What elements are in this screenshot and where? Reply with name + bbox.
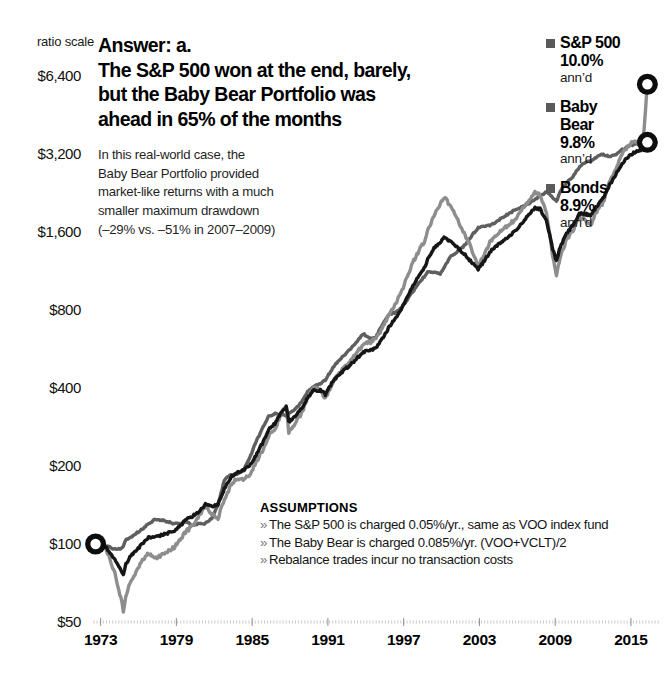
subcopy-line-4: smaller maximum drawdown bbox=[98, 202, 348, 221]
subcopy-line-1: In this real-world case, the bbox=[98, 146, 348, 165]
y-axis-label-1600: $1,600 bbox=[5, 223, 81, 240]
page-title: Answer: a. The S&P 500 won at the end, b… bbox=[98, 33, 428, 131]
y-axis-label-100: $100 bbox=[5, 535, 81, 552]
x-axis-label-1985: 1985 bbox=[222, 631, 282, 649]
chart-legend: S&P 500 10.0% ann’d Baby Bear 9.8% ann’d… bbox=[546, 34, 664, 243]
headline-line-4: ahead in 65% of the months bbox=[98, 107, 428, 132]
x-axis-label-1973: 1973 bbox=[71, 631, 131, 649]
x-axis-label-2015: 2015 bbox=[601, 631, 661, 649]
y-axis-label-6400: $6,400 bbox=[5, 67, 81, 84]
start-marker-100-hole bbox=[90, 539, 100, 549]
legend-item-baby-bear: Baby Bear 9.8% ann’d bbox=[546, 98, 664, 169]
headline-line-3: but the Baby Bear Portfolio was bbox=[98, 82, 428, 107]
subcopy-line-2: Baby Bear Portfolio provided bbox=[98, 165, 348, 184]
legend-swatch-icon-bonds bbox=[546, 184, 555, 193]
assumptions-block: ASSUMPTIONS »The S&P 500 is charged 0.05… bbox=[260, 500, 660, 569]
assumption-item-1: »The S&P 500 is charged 0.05%/yr., same … bbox=[260, 516, 660, 534]
bullet-icon-1: » bbox=[260, 517, 267, 532]
legend-label-baby-bear-2: Bear bbox=[560, 116, 664, 134]
assumption-text-1: The S&P 500 is charged 0.05%/yr., same a… bbox=[269, 517, 608, 532]
legend-swatch-icon-sp500 bbox=[546, 39, 555, 48]
legend-return-bonds: 8.9% bbox=[560, 197, 664, 215]
headline-line-1: Answer: a. bbox=[98, 33, 428, 58]
y-axis-label-200: $200 bbox=[5, 457, 81, 474]
assumption-item-3: »Rebalance trades incur no transaction c… bbox=[260, 551, 660, 569]
x-axis-label-1979: 1979 bbox=[146, 631, 206, 649]
y-axis-label-400: $400 bbox=[5, 379, 81, 396]
bullet-icon-2: » bbox=[260, 535, 267, 550]
x-axis-label-2009: 2009 bbox=[525, 631, 585, 649]
legend-return-baby-bear: 9.8% bbox=[560, 134, 664, 152]
y-axis-label-50: $50 bbox=[5, 613, 81, 630]
chart-page: ratio scale Answer: a. The S&P 500 won a… bbox=[0, 0, 667, 684]
subcopy-line-5: (–29% vs. –51% in 2007–2009) bbox=[98, 221, 348, 240]
x-axis-label-1997: 1997 bbox=[374, 631, 434, 649]
assumptions-title: ASSUMPTIONS bbox=[260, 500, 660, 515]
subcopy-line-3: market-like returns with a much bbox=[98, 183, 348, 202]
subtitle-paragraph: In this real-world case, the Baby Bear P… bbox=[98, 146, 348, 240]
headline-line-2: The S&P 500 won at the end, barely, bbox=[98, 58, 428, 83]
assumption-text-3: Rebalance trades incur no transaction co… bbox=[269, 552, 513, 567]
y-axis-label-800: $800 bbox=[5, 301, 81, 318]
y-axis-label-3200: $3,200 bbox=[5, 145, 81, 162]
ratio-scale-label: ratio scale bbox=[14, 34, 94, 49]
bullet-icon-3: » bbox=[260, 552, 267, 567]
legend-item-sp500: S&P 500 10.0% ann’d bbox=[546, 34, 664, 87]
legend-annd-bonds: ann’d bbox=[560, 215, 664, 232]
legend-label-baby-bear: Baby bbox=[560, 98, 597, 116]
legend-annd-baby-bear: ann’d bbox=[560, 151, 664, 168]
assumption-item-2: »The Baby Bear is charged 0.085%/yr. (VO… bbox=[260, 534, 660, 552]
assumption-text-2: The Baby Bear is charged 0.085%/yr. (VOO… bbox=[269, 535, 566, 550]
legend-label-bonds: Bonds bbox=[560, 179, 607, 197]
legend-swatch-icon-baby-bear bbox=[546, 103, 555, 112]
legend-annd-sp500: ann’d bbox=[560, 70, 664, 87]
legend-item-bonds: Bonds 8.9% ann’d bbox=[546, 179, 664, 232]
x-axis-label-2003: 2003 bbox=[449, 631, 509, 649]
x-axis-label-1991: 1991 bbox=[298, 631, 358, 649]
legend-label-sp500: S&P 500 bbox=[560, 34, 620, 52]
legend-return-sp500: 10.0% bbox=[560, 52, 664, 70]
